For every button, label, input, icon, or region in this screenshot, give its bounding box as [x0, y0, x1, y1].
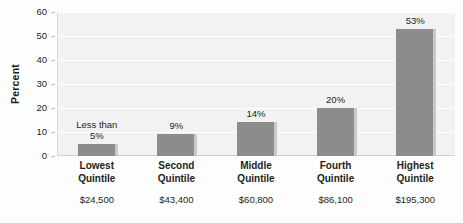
y-tick-mark [51, 132, 55, 133]
bar-value-label: 20% [326, 95, 345, 106]
category-amount: $24,500 [57, 194, 137, 205]
y-tick-mark [51, 84, 55, 85]
bar-value-label: 53% [406, 16, 425, 27]
bar-value-label: 9% [170, 121, 184, 132]
category-amount: $86,100 [296, 194, 376, 205]
category-label: SecondQuintile [137, 160, 217, 185]
bar[interactable] [396, 29, 436, 156]
category-label: HighestQuintile [375, 160, 455, 185]
bar-group[interactable] [396, 29, 436, 156]
bar-group[interactable] [317, 108, 357, 156]
category-label: MiddleQuintile [216, 160, 296, 185]
y-tick-mark [51, 60, 55, 61]
y-tick-mark [51, 108, 55, 109]
category-label: FourthQuintile [296, 160, 376, 185]
y-axis-title: Percent [9, 49, 21, 119]
bar-value-label: 14% [246, 109, 265, 120]
y-tick-label: 50 [36, 31, 47, 41]
y-tick-label: 60 [36, 7, 47, 17]
y-axis: Percent 0102030405060 [0, 0, 57, 156]
bar-group[interactable] [78, 144, 118, 156]
category-amount: $43,400 [137, 194, 217, 205]
bar[interactable] [237, 122, 277, 156]
bar-group[interactable] [237, 122, 277, 156]
gridline [58, 12, 455, 13]
y-tick-mark [51, 12, 55, 13]
y-tick-label: 0 [42, 151, 47, 161]
y-tick-mark [51, 156, 55, 157]
category-label: LowestQuintile [57, 160, 137, 185]
bar-value-label: Less than5% [76, 120, 117, 142]
y-tick-label: 30 [36, 79, 47, 89]
bar[interactable] [317, 108, 357, 156]
bar[interactable] [78, 144, 118, 156]
bar[interactable] [157, 134, 197, 156]
category-amount: $195,300 [375, 194, 455, 205]
y-tick-mark [51, 36, 55, 37]
y-tick-label: 40 [36, 55, 47, 65]
bar-chart: Percent 0102030405060 Less than5%LowestQ… [0, 0, 463, 223]
y-tick-label: 10 [36, 127, 47, 137]
category-amount: $60,800 [216, 194, 296, 205]
y-tick-label: 20 [36, 103, 47, 113]
bar-group[interactable] [157, 134, 197, 156]
